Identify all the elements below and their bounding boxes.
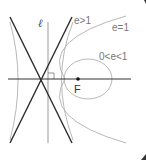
corner-mark-bottom xyxy=(141,154,146,160)
ellipse-label: 0<e<1 xyxy=(99,51,128,62)
corner-mark-top xyxy=(144,0,146,4)
hyperbola-label: e>1 xyxy=(74,15,91,26)
hyperbola-right-branch xyxy=(62,22,74,140)
parabola-label: e=1 xyxy=(112,22,129,33)
focus-point xyxy=(76,77,80,81)
focus-label: F xyxy=(74,83,81,95)
directrix-label: ℓ xyxy=(38,17,43,30)
conic-diagram: ℓ F e>1 e=1 0<e<1 xyxy=(0,0,146,160)
hyperbola-left-branch xyxy=(10,22,18,140)
right-angle-mark xyxy=(48,73,54,79)
